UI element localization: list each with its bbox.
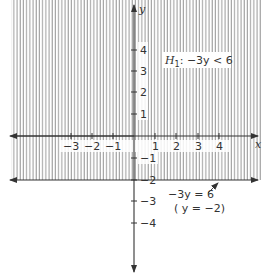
ytick-label: 1 [140, 108, 147, 121]
ytick-label: −4 [140, 217, 156, 230]
ytick-label: −2 [140, 174, 156, 187]
half-plane-graph: −3 −2 −1 1 2 3 4 4 3 2 1 −1 −2 −3 −4 y x… [0, 0, 272, 276]
y-axis-label: y [138, 3, 146, 16]
xtick-label: −1 [105, 140, 121, 153]
ytick-label: 2 [140, 86, 147, 99]
boundary-label-equation: −3y = 6 [168, 188, 214, 201]
xtick-label: 4 [216, 140, 223, 153]
xtick-label: −2 [84, 140, 100, 153]
region-label: H1: −3y < 6 [164, 54, 233, 69]
boundary-label-simplified: ( y = −2) [174, 202, 225, 215]
shaded-region [11, 0, 261, 180]
ytick-label: −3 [140, 195, 156, 208]
ytick-label: 3 [140, 65, 147, 78]
xtick-label: 3 [195, 140, 202, 153]
ytick-label: 4 [140, 44, 147, 57]
region-label-rest: : −3y < 6 [180, 54, 233, 67]
xtick-label: 2 [173, 140, 180, 153]
x-axis-label: x [255, 138, 262, 151]
region-label-h: H [164, 54, 175, 67]
xtick-label: −3 [63, 140, 79, 153]
ytick-label: −1 [140, 152, 156, 165]
